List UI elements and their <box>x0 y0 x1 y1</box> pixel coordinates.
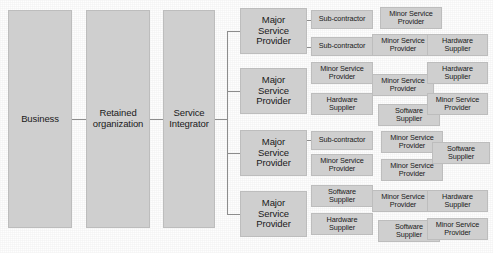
node-label: SoftwareSupplier <box>447 145 475 161</box>
node-label: Minor ServiceProvider <box>436 96 479 112</box>
node-label: SoftwareSupplier <box>328 188 356 204</box>
node-hardware-supplier-2: HardwareSupplier <box>427 62 488 84</box>
connector-branch-msp-3 <box>227 153 240 154</box>
node-business-1: Business <box>8 10 72 228</box>
node-hardware-supplier-8: HardwareSupplier <box>311 213 373 235</box>
node-label: HardwareSupplier <box>327 216 358 232</box>
node-label: Minor ServiceProvider <box>381 193 424 209</box>
node-major-service-provider-2: MajorServiceProvider <box>240 68 307 114</box>
node-sub-contractor-1: Sub-contractor <box>311 10 373 29</box>
node-sub-contractor-5: Sub-contractor <box>311 131 373 150</box>
node-label: Minor ServiceProvider <box>390 162 433 178</box>
node-minor-service-provider-3: Minor ServiceProvider <box>372 74 434 96</box>
node-label: SoftwareSupplier <box>395 223 423 239</box>
node-label: MajorServiceProvider <box>256 137 291 169</box>
node-label: Minor ServiceProvider <box>390 134 433 150</box>
connector-branch-msp-2 <box>227 91 240 92</box>
connector-integrator-trunk <box>227 31 228 214</box>
node-label: HardwareSupplier <box>442 37 473 53</box>
node-label: Minor ServiceProvider <box>436 221 479 237</box>
node-label: Sub-contractor <box>319 15 365 23</box>
node-minor-service-provider-1: Minor ServiceProvider <box>380 7 442 29</box>
node-sub-contractor-2: Sub-contractor <box>311 37 373 56</box>
node-label: Minor ServiceProvider <box>381 77 424 93</box>
node-label: Business <box>21 114 59 125</box>
node-software-supplier-4: SoftwareSupplier <box>432 142 490 164</box>
node-minor-service-provider-6: Minor ServiceProvider <box>427 218 488 240</box>
node-hardware-supplier-5: HardwareSupplier <box>427 190 488 212</box>
node-software-supplier-7: SoftwareSupplier <box>311 185 373 207</box>
node-hardware-supplier-1: HardwareSupplier <box>427 34 488 56</box>
node-label: SoftwareSupplier <box>395 107 423 123</box>
node-major-service-provider-1: MajorServiceProvider <box>240 8 307 54</box>
connector-retained-to-integrator <box>150 119 163 120</box>
node-label: Minor ServiceProvider <box>389 10 432 26</box>
node-label: HardwareSupplier <box>442 193 473 209</box>
connector-branch-msp-4 <box>227 214 240 215</box>
connector-integrator-stem <box>215 119 228 120</box>
node-minor-service-provider-6: Minor ServiceProvider <box>311 154 373 176</box>
node-hardware-supplier-4: HardwareSupplier <box>311 93 373 115</box>
node-minor-service-provider-7: Minor ServiceProvider <box>372 190 434 212</box>
node-label: MajorServiceProvider <box>256 15 291 47</box>
node-label: Minor ServiceProvider <box>320 65 363 81</box>
node-minor-service-provider-3: Minor ServiceProvider <box>427 93 488 115</box>
supply-chain-diagram: BusinessRetainedorganizationServiceInteg… <box>0 0 493 253</box>
node-major-service-provider-3: MajorServiceProvider <box>240 130 307 176</box>
node-label: Minor ServiceProvider <box>320 157 363 173</box>
node-minor-service-provider-3: Minor ServiceProvider <box>311 62 373 84</box>
node-label: Retainedorganization <box>93 108 144 129</box>
node-label: Sub-contractor <box>319 136 365 144</box>
connector-branch-msp-1 <box>227 31 240 32</box>
node-minor-service-provider-2: Minor ServiceProvider <box>372 34 434 56</box>
node-retained-organization-1: Retainedorganization <box>86 10 150 228</box>
node-label: ServiceIntegrator <box>169 108 209 129</box>
node-label: HardwareSupplier <box>327 96 358 112</box>
node-label: Minor ServiceProvider <box>381 37 424 53</box>
node-major-service-provider-4: MajorServiceProvider <box>240 191 307 237</box>
connector-business-to-retained <box>72 119 86 120</box>
node-label: HardwareSupplier <box>442 65 473 81</box>
node-service-integrator-1: ServiceIntegrator <box>163 10 215 228</box>
node-label: MajorServiceProvider <box>256 198 291 230</box>
node-label: MajorServiceProvider <box>256 75 291 107</box>
node-label: Sub-contractor <box>319 42 365 50</box>
